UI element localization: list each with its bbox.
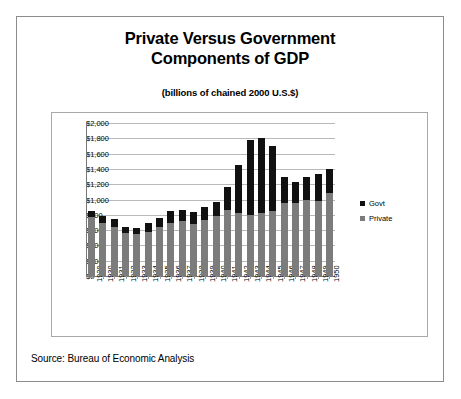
bar-stack [303,123,310,276]
x-axis-tick [250,276,251,279]
legend-label: Govt [369,199,385,208]
x-axis-tick [205,276,206,279]
bar-stack [269,123,276,276]
bar-segment-govt [167,211,174,223]
bar-stack [122,123,129,276]
x-axis-tick [273,276,274,279]
bar-segment-govt [156,218,163,227]
bar-segment-private [190,224,197,276]
bar-segment-govt [99,216,106,223]
chart-title-line-1: Private Versus Government [17,28,443,48]
legend-item: Private [360,214,392,223]
chart-title-line-2: Components of GDP [17,48,443,68]
bar-stack [258,123,265,276]
bar-segment-govt [133,228,140,234]
bar-stack [326,123,333,276]
x-axis-tick [329,276,330,279]
x-axis-tick [307,276,308,279]
bar-stack [247,123,254,276]
bar-stack [224,123,231,276]
bar-segment-govt [88,211,95,217]
bar-segment-govt [179,210,186,221]
x-axis-tick [103,276,104,279]
bar-stack [213,123,220,276]
x-axis-tick [239,276,240,279]
bar-segment-govt [315,174,322,200]
chart-title: Private Versus Government Components of … [17,28,443,68]
bar-stack [111,123,118,276]
x-axis-tick [261,276,262,279]
bar-segment-govt [326,169,333,194]
bar-segment-govt [145,223,152,231]
bar-segment-govt [122,227,129,233]
bar-stack [167,123,174,276]
bar-segment-govt [224,187,231,210]
x-axis-tick [227,276,228,279]
bar-segment-govt [235,165,242,212]
bar-segment-govt [201,207,208,220]
bar-segment-govt [190,212,197,225]
bar-stack [88,123,95,276]
bar-stack [201,123,208,276]
bar-stack [145,123,152,276]
bar-segment-govt [111,219,118,226]
legend-label: Private [369,214,392,223]
x-axis-tick [284,276,285,279]
x-axis-tick-label: 1950 [332,265,341,282]
x-axis-tick [148,276,149,279]
bar-stack [235,123,242,276]
legend-swatch-icon [360,201,365,206]
figure-frame: Private Versus Government Components of … [16,16,444,382]
bar-segment-govt [281,177,288,202]
x-axis-tick [114,276,115,279]
chart-legend: GovtPrivate [360,199,392,229]
bar-segment-govt [269,146,276,211]
x-axis-tick [216,276,217,279]
bar-segment-govt [213,202,220,217]
y-axis-line [86,123,87,276]
bar-stack [156,123,163,276]
bar-segment-govt [247,140,254,215]
bar-stack [190,123,197,276]
bar-segment-govt [258,138,265,213]
bar-segment-govt [303,177,310,199]
bar-stack [292,123,299,276]
bar-segment-private [156,227,163,276]
x-axis-tick [171,276,172,279]
x-axis-tick [182,276,183,279]
x-axis-tick [137,276,138,279]
x-axis-tick [318,276,319,279]
x-axis-tick [92,276,93,279]
bar-segment-govt [292,182,299,202]
legend-item: Govt [360,199,392,208]
source-note: Source: Bureau of Economic Analysis [31,353,194,364]
x-axis-tick [194,276,195,279]
x-axis-tick [295,276,296,279]
bar-stack [133,123,140,276]
bar-stack [315,123,322,276]
bar-stack [281,123,288,276]
bar-stack [99,123,106,276]
bar-segment-private [326,193,333,276]
bar-stack [179,123,186,276]
legend-swatch-icon [360,216,365,221]
chart-subtitle: (billions of chained 2000 U.S.$) [17,87,443,98]
x-axis-tick [160,276,161,279]
x-axis-tick [126,276,127,279]
